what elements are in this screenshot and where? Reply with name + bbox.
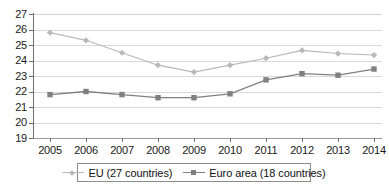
y-tick-label-22: 22 <box>15 86 27 97</box>
x-tick-mark-2013 <box>338 138 339 142</box>
x-tick-mark-2011 <box>266 138 267 142</box>
gridline-20 <box>33 123 382 124</box>
y-tick-label-26: 26 <box>15 24 27 35</box>
x-tick-label-2010: 2010 <box>218 144 242 156</box>
x-tick-label-2011: 2011 <box>255 144 278 156</box>
x-tick-label-2009: 2009 <box>182 144 206 156</box>
y-tick-mark-23 <box>29 76 33 77</box>
x-tick-mark-2014 <box>374 138 375 142</box>
y-tick-mark-24 <box>29 61 33 62</box>
legend-swatch-euro-area-icon <box>183 168 205 177</box>
y-tick-mark-21 <box>29 107 33 108</box>
y-tick-label-23: 23 <box>15 71 27 82</box>
x-tick-mark-2006 <box>86 138 87 142</box>
line-chart: 27 26 25 24 23 22 21 20 19 2005 2006 200… <box>0 0 389 193</box>
y-tick-mark-19 <box>29 138 33 139</box>
gridline-25 <box>33 45 382 46</box>
gridline-26 <box>33 30 382 31</box>
gridline-23 <box>33 76 382 77</box>
x-tick-label-2007: 2007 <box>110 144 134 156</box>
legend-label-eu: EU (27 countries) <box>88 167 172 179</box>
y-tick-mark-20 <box>29 123 33 124</box>
gridline-22 <box>33 92 382 93</box>
y-tick-mark-22 <box>29 92 33 93</box>
x-tick-mark-2010 <box>230 138 231 142</box>
y-tick-label-19: 19 <box>15 133 27 144</box>
y-axis-line <box>33 13 34 139</box>
x-tick-mark-2008 <box>158 138 159 142</box>
gridline-27 <box>33 14 382 15</box>
x-tick-mark-2005 <box>50 138 51 142</box>
legend-entry-euro-area: Euro area (18 countries) <box>183 167 325 179</box>
x-tick-label-2013: 2013 <box>326 144 350 156</box>
chart-legend: EU (27 countries) Euro area (18 countrie… <box>77 163 311 182</box>
legend-swatch-eu-icon <box>62 168 84 177</box>
x-tick-label-2008: 2008 <box>146 144 170 156</box>
y-tick-mark-25 <box>29 45 33 46</box>
y-tick-label-25: 25 <box>15 40 27 51</box>
x-tick-mark-2009 <box>194 138 195 142</box>
x-tick-label-2014: 2014 <box>362 144 386 156</box>
y-tick-label-27: 27 <box>15 9 27 20</box>
y-tick-mark-26 <box>29 30 33 31</box>
plot-area <box>33 14 382 138</box>
x-tick-label-2012: 2012 <box>290 144 314 156</box>
y-tick-label-24: 24 <box>15 55 27 66</box>
x-tick-mark-2007 <box>122 138 123 142</box>
gridline-24 <box>33 61 382 62</box>
x-tick-label-2006: 2006 <box>74 144 98 156</box>
y-tick-label-21: 21 <box>15 102 27 113</box>
legend-entry-eu: EU (27 countries) <box>62 167 172 179</box>
y-tick-mark-27 <box>29 14 33 15</box>
x-tick-label-2005: 2005 <box>38 144 62 156</box>
legend-label-euro-area: Euro area (18 countries) <box>209 167 325 179</box>
x-tick-mark-2012 <box>302 138 303 142</box>
y-tick-label-20: 20 <box>15 117 27 128</box>
gridline-21 <box>33 107 382 108</box>
